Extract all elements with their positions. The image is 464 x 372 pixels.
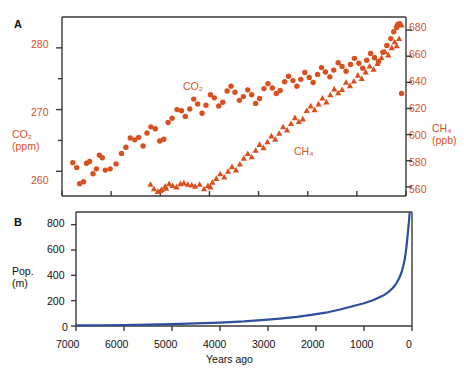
panel-b-frame xyxy=(76,212,412,326)
co2-scatter-series xyxy=(70,21,404,186)
panel-a-right-ticks xyxy=(406,30,412,187)
population-curve xyxy=(76,213,410,325)
panel-a-frame xyxy=(62,17,406,196)
panel-a-bottom-ticks xyxy=(62,191,406,196)
panel-b-bottom-ticks xyxy=(76,326,412,331)
ch4-scatter-series xyxy=(147,21,404,194)
plot-canvas xyxy=(0,0,464,372)
panel-a-left-ticks xyxy=(56,48,62,171)
panel-b-left-ticks xyxy=(71,225,76,326)
figure-root: A CO₂ (ppm) CH₄ (ppb) 280 270 260 680 66… xyxy=(0,0,464,372)
